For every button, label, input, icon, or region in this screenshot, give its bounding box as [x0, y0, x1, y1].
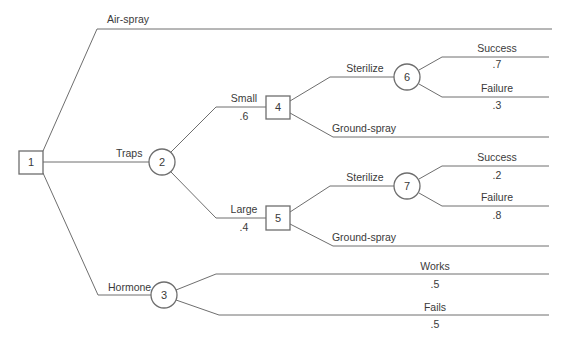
- node-6-label: 6: [404, 71, 410, 83]
- decision-tree-diagram: 1 2 3 4 5 6 7 Air-spray Traps Hormone Sm…: [0, 0, 569, 347]
- edge-success-6: [419, 57, 549, 70]
- prob-small: .6: [240, 110, 249, 122]
- node-3-label: 3: [161, 289, 167, 301]
- label-success-7: Success: [477, 151, 517, 163]
- edge-works: [176, 274, 549, 290]
- label-small: Small: [231, 92, 257, 104]
- node-7-label: 7: [404, 180, 410, 192]
- label-fails: Fails: [424, 301, 446, 313]
- edge-sterilize-small: [290, 77, 394, 101]
- prob-fails: .5: [431, 318, 440, 330]
- edge-fails: [176, 300, 549, 315]
- edge-ground-spray-small: [290, 113, 549, 137]
- node-3: 3: [151, 282, 177, 308]
- edge-sterilize-large: [290, 186, 394, 212]
- label-air-spray: Air-spray: [107, 13, 150, 25]
- prob-success-6: .7: [493, 58, 502, 70]
- node-6: 6: [394, 64, 420, 90]
- edge-air-spray: [43, 29, 552, 151]
- node-4-label: 4: [275, 101, 281, 113]
- node-1: 1: [19, 151, 43, 174]
- prob-success-7: .2: [493, 169, 502, 181]
- node-5-label: 5: [275, 212, 281, 224]
- label-ground-spray-large: Ground-spray: [332, 231, 397, 243]
- label-hormone: Hormone: [108, 281, 151, 293]
- prob-failure-6: .3: [493, 99, 502, 111]
- label-success-6: Success: [477, 42, 517, 54]
- label-traps: Traps: [116, 147, 142, 159]
- label-sterilize-large: Sterilize: [346, 171, 384, 183]
- node-2-label: 2: [159, 156, 165, 168]
- label-failure-6: Failure: [481, 82, 513, 94]
- prob-failure-7: .8: [493, 209, 502, 221]
- edge-small: [171, 107, 266, 152]
- prob-large: .4: [240, 221, 249, 233]
- label-works: Works: [420, 260, 450, 272]
- node-2: 2: [149, 149, 175, 175]
- node-1-label: 1: [28, 156, 34, 168]
- label-failure-7: Failure: [481, 191, 513, 203]
- label-ground-spray-small: Ground-spray: [332, 122, 397, 134]
- edges: [43, 29, 552, 315]
- edge-ground-spray-large: [290, 224, 549, 246]
- label-sterilize-small: Sterilize: [346, 62, 384, 74]
- prob-works: .5: [431, 278, 440, 290]
- node-5: 5: [266, 206, 290, 230]
- edge-hormone: [43, 173, 151, 295]
- node-4: 4: [266, 96, 290, 119]
- node-7: 7: [394, 173, 420, 199]
- label-large: Large: [231, 203, 258, 215]
- edge-success-7: [419, 166, 549, 179]
